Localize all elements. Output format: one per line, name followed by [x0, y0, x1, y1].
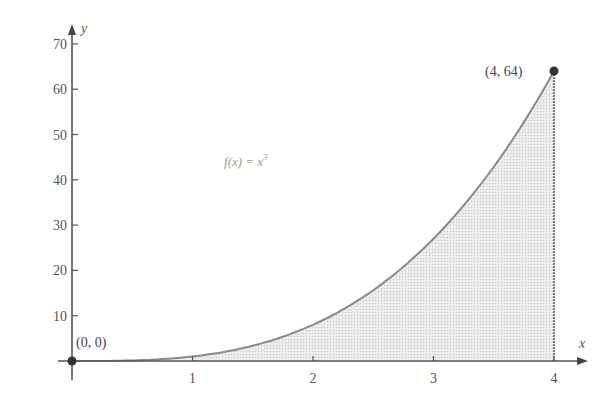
end-point — [550, 67, 559, 76]
x-tick-label: 1 — [189, 371, 196, 386]
y-tick-label: 50 — [53, 128, 67, 143]
x-tick-label: 4 — [551, 371, 558, 386]
function-label-exponent: 3 — [262, 152, 268, 162]
x-axis-arrow-icon — [577, 357, 588, 365]
y-ticks: 10203040506070 — [53, 37, 78, 324]
y-axis-arrow-icon — [68, 24, 76, 35]
cubic-area-chart: 1234 10203040506070 x y (0, 0) (4, 64) f… — [0, 0, 613, 407]
y-tick-label: 70 — [53, 37, 67, 52]
function-label: f(x) = x3 — [224, 152, 268, 169]
origin-point-label: (0, 0) — [76, 335, 107, 351]
x-axis-label: x — [578, 336, 586, 351]
y-tick-label: 60 — [53, 82, 67, 97]
y-tick-label: 40 — [53, 173, 67, 188]
end-point-label: (4, 64) — [485, 64, 523, 80]
y-tick-label: 20 — [53, 263, 67, 278]
origin-point — [68, 357, 77, 366]
y-tick-label: 10 — [53, 309, 67, 324]
x-tick-label: 2 — [310, 371, 317, 386]
shaded-area — [72, 71, 554, 361]
y-axis-label: y — [79, 21, 88, 36]
x-tick-label: 3 — [430, 371, 437, 386]
y-tick-label: 30 — [53, 218, 67, 233]
function-label-body: (x) = x — [228, 154, 264, 169]
